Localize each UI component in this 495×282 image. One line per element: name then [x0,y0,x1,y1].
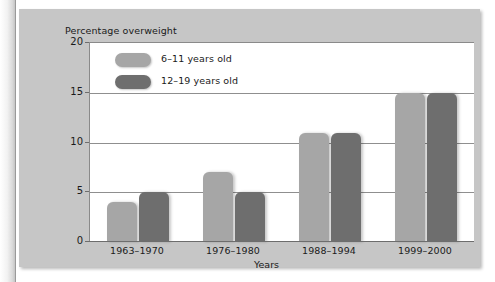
x-axis-tick-label: 1976–1980 [185,245,281,256]
y-axis-tick-label: 15 [59,86,83,97]
x-axis-tick-label: 1988–1994 [281,245,377,256]
bar [107,202,137,242]
legend-item-label: 6–11 years old [161,53,232,64]
y-axis-tick-label: 0 [59,235,83,246]
legend-item-label: 12–19 years old [161,75,238,86]
page-edge-line [15,0,16,282]
bar [299,133,329,242]
page-edge-shading [0,0,16,282]
y-axis-tick-mark [85,191,89,192]
bar [395,93,425,242]
y-axis-tick-label: 10 [59,136,83,147]
chart-page: Percentage overweight 05101520 1963–1970… [0,0,495,282]
y-axis-tick-label: 5 [59,185,83,196]
bar [235,192,265,242]
x-axis-tick-label: 1999–2000 [377,245,473,256]
y-axis-tick-mark [85,92,89,93]
y-axis-tick-mark [85,142,89,143]
bar [427,93,457,242]
y-axis-tick-label: 20 [59,36,83,47]
x-axis-title: Years [19,259,495,270]
y-axis-tick-mark [85,241,89,242]
bar [331,133,361,242]
figure-panel: Percentage overweight 05101520 1963–1970… [19,9,480,267]
legend-swatch-icon [115,75,151,89]
y-axis-tick-mark [85,42,89,43]
bar [203,172,233,242]
plot-area [89,42,474,242]
legend-swatch-icon [115,53,151,67]
bar [139,192,169,242]
chart-title: Percentage overweight [65,25,177,36]
x-axis-tick-label: 1963–1970 [89,245,185,256]
x-axis-line [88,241,474,242]
